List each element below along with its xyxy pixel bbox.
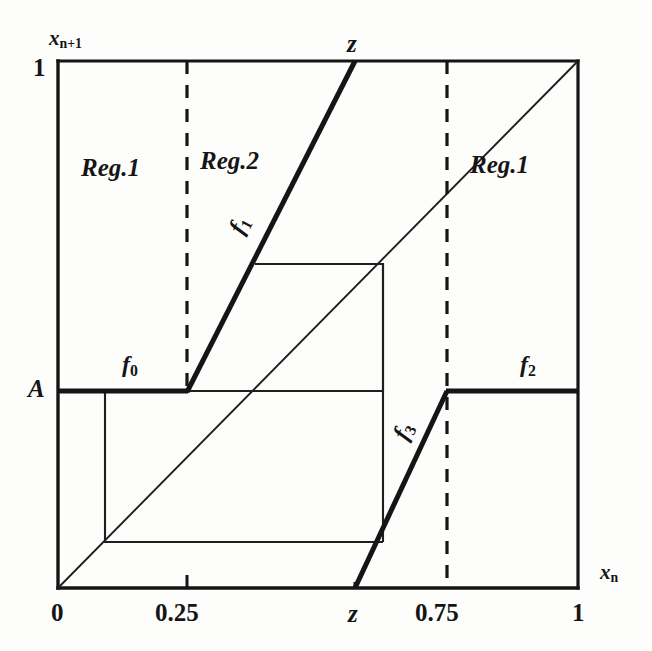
top-marker-label-z: z: [347, 31, 357, 56]
branch-label-f0-base: f: [122, 351, 130, 377]
x-tick-label-025: 0.25: [155, 600, 199, 625]
region-label-right: Reg.1: [470, 152, 529, 177]
y-axis-label: xn+1: [49, 28, 82, 51]
x-tick-label-0: 0: [51, 600, 64, 625]
x-axis-label-base: x: [600, 560, 611, 584]
x-tick-label-075: 0.75: [415, 600, 459, 625]
x-tick-label-1: 1: [572, 600, 585, 625]
y-axis-label-base: x: [49, 26, 60, 50]
cobweb-upper-path: [187, 264, 383, 391]
y-tick-label-A: A: [28, 376, 45, 401]
branch-label-f2-base: f: [520, 351, 528, 377]
branch-label-f2: f2: [520, 352, 536, 379]
identity-diagonal-line: [58, 61, 578, 588]
figure-root: xn+1 xn 1 A 0 0.25 z 0.75 1 z Reg.1 Reg.…: [0, 0, 652, 651]
region-label-center: Reg.2: [200, 148, 259, 173]
x-tick-label-z: z: [348, 601, 358, 626]
cobweb-lower-path: [105, 391, 383, 542]
y-tick-label-1: 1: [33, 55, 46, 80]
branch-label-f0: f0: [122, 352, 138, 379]
branch-label-f2-subscript: 2: [528, 362, 536, 379]
y-axis-label-subscript: n+1: [60, 36, 83, 51]
region-label-left: Reg.1: [81, 155, 140, 180]
x-axis-label-subscript: n: [611, 570, 619, 585]
cobweb-trajectory: [105, 264, 383, 542]
branch-label-f0-subscript: 0: [130, 362, 138, 379]
x-axis-label: xn: [600, 562, 618, 585]
map-plot-canvas: [0, 0, 652, 651]
branch-f1-segment: [187, 61, 355, 392]
